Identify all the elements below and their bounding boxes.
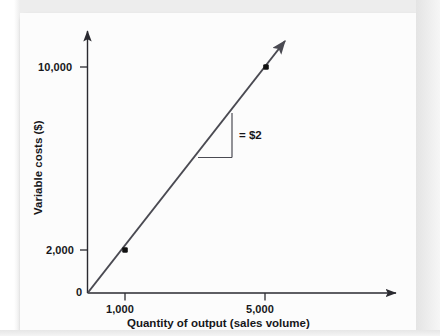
x-axis-ticks [125, 293, 265, 301]
y-tick-label-2000: 2,000 [46, 244, 74, 256]
y-tick-label-0: 0 [76, 286, 82, 298]
data-point-1000-2000 [122, 247, 128, 253]
x-tick-label-1000: 1,000 [106, 303, 134, 315]
data-point-markers [122, 64, 269, 253]
data-point-5000-10000 [263, 64, 269, 70]
y-tick-label-10000: 10,000 [38, 61, 72, 73]
slope-triangle [198, 113, 232, 158]
slope-annotation-label: = $2 [239, 129, 262, 141]
y-axis-title: Variable costs ($) [32, 120, 44, 215]
chart-figure: 10,000 2,000 0 1,000 5,000 Quantity of o… [0, 0, 440, 336]
y-axis-ticks [80, 67, 88, 250]
x-tick-label-5000: 5,000 [246, 303, 274, 315]
series-variable-costs [88, 41, 285, 293]
plot-area [0, 0, 440, 336]
x-axis-title: Quantity of output (sales volume) [127, 317, 310, 329]
